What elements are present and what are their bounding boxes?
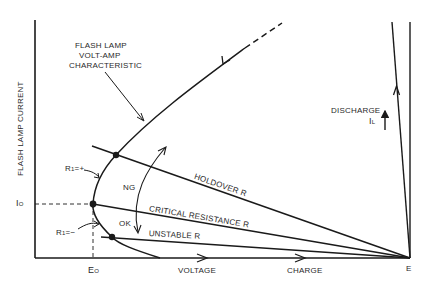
voltage-label: VOLTAGE	[178, 266, 216, 275]
ok-region-label: OK	[119, 219, 131, 228]
discharge-current-label: IL	[369, 117, 375, 127]
ng-region-label: NG	[123, 183, 135, 192]
charge-label: CHARGE	[287, 266, 322, 275]
unstable-point	[109, 234, 115, 240]
r1-negative-label: R1=−	[56, 228, 75, 238]
e-tick-label: E	[406, 264, 412, 273]
r1-pos-suffix: =+	[75, 164, 85, 173]
ng-ok-arc	[136, 148, 165, 232]
holdover-r-line	[92, 146, 410, 258]
i0-sub: O	[19, 201, 24, 207]
curve-label-line-3: CHARACTERISTIC	[69, 61, 142, 70]
curve-label-line-2: VOLT-AMP	[79, 51, 120, 60]
r1-positive-leader	[84, 170, 99, 177]
curve-direction-arrow-icon	[222, 56, 230, 64]
critical-point	[90, 201, 97, 208]
holdover-point	[113, 152, 119, 158]
e0-tick-label: EO	[88, 266, 99, 276]
critical-resistance-line	[93, 204, 410, 258]
y-axis-label: FLASH LAMP CURRENT	[16, 81, 25, 176]
unstable-r-line	[101, 237, 410, 258]
il-sub: L	[372, 119, 376, 125]
r1-positive-label: R1=+	[65, 164, 84, 174]
discharge-label: DISCHARGE	[331, 106, 380, 115]
r1-neg-suffix: =−	[66, 228, 76, 237]
volt-amp-curve-dashed	[245, 23, 282, 48]
i0-tick-label: IO	[16, 199, 24, 209]
discharge-line	[392, 22, 410, 258]
e0-sub: O	[94, 268, 99, 274]
curve-label-line-1: FLASH LAMP	[75, 41, 127, 50]
discharge-line-arrow-icon	[394, 86, 400, 95]
curve-label-leader	[105, 72, 143, 120]
diagram-canvas	[0, 0, 431, 285]
